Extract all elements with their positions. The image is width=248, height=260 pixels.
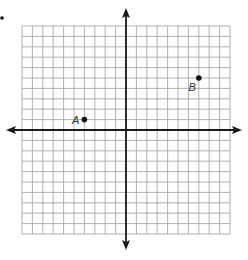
point-a-label: A	[71, 114, 79, 126]
axes	[6, 8, 242, 250]
point-b-dot	[196, 75, 202, 81]
point-b-label: B	[188, 81, 195, 93]
problem-bullet-icon	[0, 16, 4, 20]
point-a-dot	[82, 117, 88, 123]
coordinate-plane: AB	[0, 0, 248, 260]
